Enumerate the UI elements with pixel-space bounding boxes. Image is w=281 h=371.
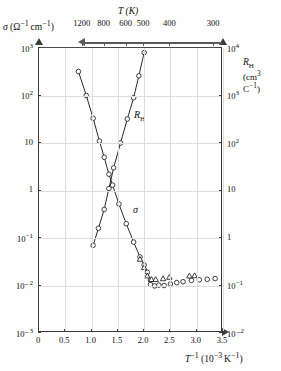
series-line- — [78, 72, 150, 281]
top-axis-tick — [213, 42, 214, 46]
figure-panel: σ (Ω−1 cm−1) T (K) RH (cm3C−1) T−1 (10−3… — [0, 0, 281, 371]
right-axis-tick-label: 102 — [227, 138, 239, 148]
top-axis-tick-label: 300 — [197, 19, 229, 28]
bottom-axis-tick — [196, 329, 197, 332]
bottom-axis-tick — [64, 329, 65, 332]
data-point-circle — [102, 207, 107, 212]
data-point-circle — [110, 183, 115, 188]
gridline-vertical — [144, 48, 145, 331]
data-point-circle — [131, 240, 136, 245]
left-axis-tick-label: 10 — [0, 138, 33, 147]
data-point-circle — [111, 166, 116, 171]
bottom-axis-tick-label: 0 — [24, 336, 52, 345]
data-point-circle — [137, 73, 142, 78]
data-point-circle — [205, 277, 210, 282]
data-point-circle — [174, 280, 179, 285]
bottom-axis-tick — [91, 329, 92, 332]
top-axis-tick — [82, 42, 83, 46]
left-axis-tick — [38, 332, 41, 333]
left-axis-tick-label: 10⁻2 — [0, 280, 33, 290]
right-axis-unit: (cm3C−1) — [243, 70, 261, 94]
data-point-triangle — [187, 273, 192, 278]
data-point-circle — [96, 226, 101, 231]
right-axis-tick-label: 1 — [227, 233, 231, 242]
left-axis-tick-label: 102 — [0, 90, 33, 100]
bottom-axis-tick-label: 3.0 — [182, 336, 210, 345]
plot-area: RH σ — [38, 47, 222, 332]
bottom-axis-tick-label: 2.0 — [129, 336, 157, 345]
gridline-vertical — [92, 48, 93, 331]
data-point-circle — [107, 172, 112, 177]
top-axis-tick — [126, 42, 127, 46]
data-point-circle — [189, 278, 194, 283]
right-axis-tick — [219, 142, 222, 143]
right-axis-tick — [219, 190, 222, 191]
right-axis-tick — [219, 237, 222, 238]
right-axis-tick-label: 104 — [227, 43, 239, 53]
data-point-circle — [197, 277, 202, 282]
right-axis-tick-label: 10−1 — [227, 280, 243, 290]
gridline-horizontal — [39, 286, 221, 287]
left-axis-title: σ (Ω−1 cm−1) — [3, 20, 54, 33]
bottom-axis-tick — [117, 329, 118, 332]
bottom-axis-tick-label: 0.5 — [50, 336, 78, 345]
gridline-vertical — [223, 48, 224, 331]
left-axis-tick — [38, 285, 41, 286]
data-point-circle — [124, 221, 129, 226]
left-axis-tick-label: 1 — [0, 185, 33, 194]
data-point-circle — [102, 155, 107, 160]
bottom-axis-tick — [222, 329, 223, 332]
right-axis-tick-label: 103 — [227, 90, 239, 100]
gridline-horizontal — [39, 238, 221, 239]
gridline-vertical — [118, 48, 119, 331]
data-point-triangle — [153, 277, 158, 282]
top-axis-tick — [143, 42, 144, 46]
gridline-horizontal — [39, 96, 221, 97]
left-axis-tick-label: 103 — [0, 43, 33, 53]
bottom-axis-tick — [143, 329, 144, 332]
data-point-circle — [181, 279, 186, 284]
right-axis-tick — [219, 47, 222, 48]
bottom-axis-tick-label: 2.5 — [155, 336, 183, 345]
right-axis-tick — [219, 95, 222, 96]
left-axis-tick — [38, 237, 41, 238]
bottom-axis-tick-label: 1.0 — [77, 336, 105, 345]
gridline-vertical — [170, 48, 171, 331]
gridline-vertical — [65, 48, 66, 331]
gridline-horizontal — [39, 143, 221, 144]
top-axis-tick — [169, 42, 170, 46]
top-axis-tick-label: 400 — [153, 19, 185, 28]
right-axis-title: RH — [243, 58, 254, 70]
data-point-circle — [125, 117, 130, 122]
left-axis-tick — [38, 47, 41, 48]
sigma-curve-label: σ — [133, 205, 138, 215]
bottom-axis-tick-label: 1.5 — [103, 336, 131, 345]
data-point-circle — [76, 69, 81, 74]
left-axis-arrow — [35, 38, 43, 45]
data-point-triangle — [160, 276, 165, 281]
bottom-axis-tick-label: 3.5 — [208, 336, 236, 345]
right-axis-tick — [219, 285, 222, 286]
top-axis-title: T (K) — [118, 7, 138, 17]
right-axis-tick — [219, 332, 222, 333]
left-axis-tick — [38, 190, 41, 191]
top-axis-tick — [104, 42, 105, 46]
left-axis-tick-label: 10−1 — [0, 233, 33, 243]
data-point-circle — [213, 276, 218, 281]
gridline-horizontal — [39, 191, 221, 192]
gridline-vertical — [197, 48, 198, 331]
left-axis-tick — [38, 95, 41, 96]
left-axis-tick — [38, 142, 41, 143]
bottom-axis-title: T−1 (10−3 K−1) — [185, 352, 243, 365]
right-axis-tick-label: 10 — [227, 185, 236, 194]
bottom-axis-tick — [169, 329, 170, 332]
